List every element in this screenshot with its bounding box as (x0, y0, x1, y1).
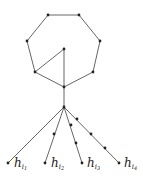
vertex (99, 40, 102, 43)
vertex-leaf (118, 162, 121, 165)
vertex (92, 71, 95, 74)
vertex (47, 14, 50, 17)
vertex (63, 86, 66, 89)
vertex-inner (63, 48, 66, 51)
label-h-i3: hi3 (87, 156, 100, 171)
vertices (7, 14, 121, 165)
label-h-i4: hi4 (124, 156, 137, 171)
vertex (34, 71, 37, 74)
edge-hub-leaf3 (64, 107, 82, 163)
vertex (26, 40, 29, 43)
vertex-mid (70, 124, 73, 127)
vertex-mid (53, 133, 56, 136)
vertex-leaf (7, 162, 10, 165)
graph-diagram: hi1 hi2 hi3 hi4 (0, 0, 143, 178)
edges (8, 15, 119, 163)
vertex-hub (63, 106, 66, 109)
vertex-mid (76, 118, 79, 121)
edge-f-inner (35, 49, 64, 72)
vertex-leaf (81, 162, 84, 165)
vertex-mid (104, 147, 107, 150)
heptagon-cycle (27, 15, 100, 87)
label-h-i1: hi1 (14, 156, 27, 171)
label-h-i2: hi2 (51, 156, 64, 171)
vertex-mid (75, 142, 78, 145)
vertex (78, 14, 81, 17)
vertex-leaf (44, 162, 47, 165)
vertex-mid (90, 133, 93, 136)
edge-hub-leaf1 (8, 107, 64, 163)
